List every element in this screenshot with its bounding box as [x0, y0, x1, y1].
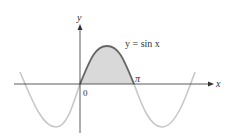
y-axis-arrow-icon	[78, 24, 83, 30]
origin-label: 0	[83, 88, 88, 98]
y-axis-label: y	[76, 12, 82, 23]
sine-diagram: y x y = sin x 0 π	[0, 0, 230, 140]
pi-label: π	[135, 73, 141, 84]
x-axis-arrow-icon	[208, 82, 214, 87]
function-label: y = sin x	[125, 38, 160, 49]
x-axis-label: x	[215, 78, 221, 89]
